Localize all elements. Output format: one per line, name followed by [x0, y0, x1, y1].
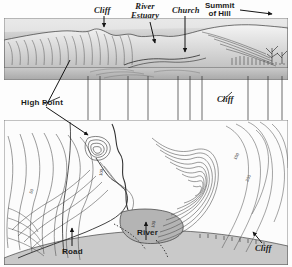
label-church: Church [172, 6, 200, 15]
label-river-estuary: River Estuary [131, 2, 159, 19]
label-high-point: High Point [21, 99, 63, 107]
figure-landscape-and-contour-map: 50 100 100 150 200 [0, 0, 292, 267]
map-panel: 50 100 100 150 200 [4, 120, 288, 265]
panorama-panel [4, 18, 288, 80]
label-cliff-middle: Cliff [217, 95, 233, 104]
label-cliff-bottom: Cliff [255, 244, 271, 253]
panorama-drawing [4, 18, 288, 80]
label-river: River [137, 229, 158, 237]
label-summit-of-hill: Summit of Hill [205, 2, 234, 18]
contour-map-drawing: 50 100 100 150 200 [4, 120, 288, 265]
label-road: Road [62, 248, 83, 256]
label-cliff-panorama: Cliff [94, 6, 110, 15]
